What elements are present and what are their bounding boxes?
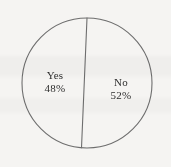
pie-slice-value-yes: 48% <box>25 82 85 95</box>
pie-chart-figure: Yes 48% No 52% <box>0 0 171 167</box>
pie-slice-name-no: No <box>91 76 151 89</box>
pie-slice-label-yes: Yes 48% <box>25 69 85 94</box>
pie-slice-label-no: No 52% <box>91 76 151 101</box>
pie-slice-name-yes: Yes <box>25 69 85 82</box>
pie-slice-value-no: 52% <box>91 89 151 102</box>
